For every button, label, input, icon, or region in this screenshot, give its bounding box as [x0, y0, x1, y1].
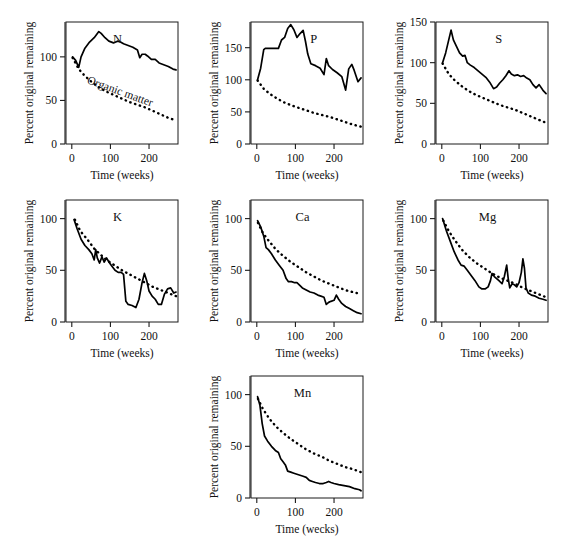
panel-p: 0501001500100200Time (weeks)Percent orig…	[207, 14, 375, 190]
y-tick-label: 100	[225, 213, 243, 225]
y-tick-label: 100	[225, 389, 243, 401]
x-axis-title: Time (weeks)	[275, 347, 338, 360]
x-tick-label: 200	[325, 506, 343, 518]
y-tick-label: 50	[231, 106, 243, 118]
x-tick-label: 100	[287, 152, 305, 164]
panel-k: 0501000100200Time (weeks)Percent origina…	[22, 192, 190, 368]
x-axis-title: Time (weeks)	[90, 169, 153, 182]
organic-matter-curve	[258, 399, 361, 472]
panel-label: P	[310, 32, 317, 46]
y-tick-label: 150	[225, 42, 243, 54]
y-tick-label: 100	[410, 57, 428, 69]
panel-label: Ca	[296, 210, 310, 224]
x-tick-label: 0	[69, 330, 75, 342]
x-tick-label: 200	[140, 330, 158, 342]
y-axis-title: Percent original remaining	[23, 199, 36, 322]
x-tick-label: 100	[472, 152, 490, 164]
panel-ca: 0501000100200Time (weeks)Percent origina…	[207, 192, 375, 368]
y-tick-label: 50	[416, 264, 428, 276]
panel-s: 0501001500100200Time (weeks)Percent orig…	[392, 14, 560, 190]
x-tick-label: 200	[510, 330, 528, 342]
nutrient-curve-ca	[258, 221, 362, 314]
x-tick-label: 0	[439, 330, 445, 342]
x-tick-label: 100	[287, 506, 305, 518]
x-axis-title: Time (wecks)	[275, 523, 338, 536]
organic-matter-curve	[443, 63, 547, 122]
panel-mg: 0501000100200Time (weeks)Percent origina…	[392, 192, 560, 368]
y-tick-label: 100	[40, 51, 58, 63]
panel-label: Mn	[294, 386, 312, 400]
y-axis-title: Percent original remaining	[393, 21, 406, 144]
x-axis-title: Time (weeks)	[90, 347, 153, 360]
nutrient-curve-mg	[443, 219, 547, 301]
y-axis-title: Percent original remaining	[208, 375, 221, 498]
y-tick-label: 0	[51, 316, 57, 328]
y-tick-label: 0	[236, 138, 242, 150]
y-axis-title: Percent original remaining	[208, 21, 221, 144]
x-tick-label: 0	[254, 330, 260, 342]
x-tick-label: 100	[102, 152, 120, 164]
figure-nutrient-decomposition: 0501000100200Time (weeks)Percent origina…	[0, 0, 562, 545]
x-tick-label: 100	[102, 330, 120, 342]
organic-matter-curve	[443, 221, 546, 298]
y-tick-label: 150	[410, 16, 428, 28]
x-tick-label: 0	[254, 506, 260, 518]
x-tick-label: 100	[287, 330, 305, 342]
x-tick-label: 200	[325, 152, 343, 164]
x-tick-label: 200	[325, 330, 343, 342]
panel-label: S	[495, 32, 502, 46]
x-axis-title: Time (weeks)	[275, 169, 338, 182]
y-tick-label: 100	[410, 213, 428, 225]
nutrient-curve-k	[74, 220, 176, 308]
x-axis-title: Time (weeks)	[460, 347, 523, 360]
y-tick-label: 50	[46, 264, 58, 276]
x-tick-label: 0	[254, 152, 260, 164]
y-axis-title: Percent original remaining	[23, 21, 36, 144]
panel-n: 0501000100200Time (weeks)Percent origina…	[22, 14, 190, 190]
y-tick-label: 0	[421, 138, 427, 150]
y-tick-label: 100	[225, 74, 243, 86]
y-tick-label: 100	[40, 213, 58, 225]
y-tick-label: 0	[51, 138, 57, 150]
panel-label: K	[113, 210, 122, 224]
panel-label: Mg	[479, 210, 497, 224]
y-tick-label: 50	[416, 97, 428, 109]
y-axis-title: Percent original remaining	[393, 199, 406, 322]
y-tick-label: 50	[231, 440, 243, 452]
x-tick-label: 100	[472, 330, 490, 342]
nutrient-curve-n	[73, 32, 177, 70]
y-tick-label: 0	[236, 316, 242, 328]
x-tick-label: 0	[69, 152, 75, 164]
x-tick-label: 200	[140, 152, 158, 164]
x-tick-label: 0	[439, 152, 445, 164]
organic-matter-curve	[75, 220, 176, 297]
nutrient-curve-mn	[258, 397, 362, 491]
y-tick-label: 0	[236, 492, 242, 504]
y-axis-title: Percent original remaining	[208, 199, 221, 322]
panel-mn: 0501000100200Time (wecks)Percent origina…	[207, 368, 375, 544]
organic-matter-annotation: Organic matter	[85, 74, 155, 110]
panel-label: N	[113, 32, 122, 46]
x-axis-title: Time (weeks)	[460, 169, 523, 182]
y-tick-label: 0	[421, 316, 427, 328]
x-tick-label: 200	[510, 152, 528, 164]
y-tick-label: 50	[231, 264, 243, 276]
y-tick-label: 50	[46, 94, 58, 106]
